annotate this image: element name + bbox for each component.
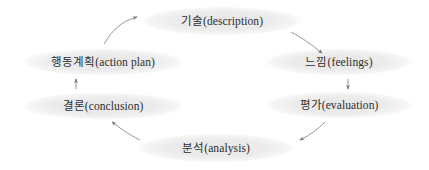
node-feelings-label: 느낌(feelings)	[305, 56, 372, 69]
node-feelings[interactable]: 느낌(feelings)	[262, 48, 416, 76]
node-evaluation-label: 평가(evaluation)	[300, 99, 379, 112]
arrow-action-plan-to-description	[104, 17, 137, 44]
node-action-plan-label: 행동계획(action plan)	[51, 56, 155, 69]
node-evaluation[interactable]: 평가(evaluation)	[262, 91, 416, 119]
node-analysis[interactable]: 분석(analysis)	[134, 133, 298, 163]
node-action-plan[interactable]: 행동계획(action plan)	[18, 48, 188, 76]
arrow-evaluation-to-analysis	[300, 122, 325, 140]
node-description[interactable]: 기술(description)	[138, 6, 306, 36]
node-conclusion-label: 결론(conclusion)	[63, 100, 144, 113]
node-description-label: 기술(description)	[181, 15, 263, 28]
node-conclusion[interactable]: 결론(conclusion)	[18, 92, 188, 120]
node-analysis-label: 분석(analysis)	[182, 142, 250, 155]
reflective-cycle-diagram: 기술(description) 느낌(feelings) 평가(evaluati…	[0, 0, 429, 170]
